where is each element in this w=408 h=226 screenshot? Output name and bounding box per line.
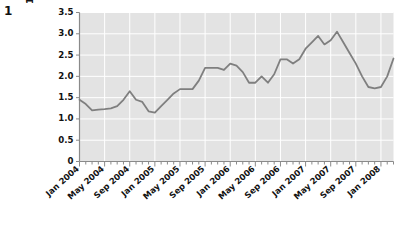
y-tick-label: 3.5 <box>58 7 73 17</box>
y-tick-label: 3.0 <box>58 28 73 38</box>
y-axis-ticks: 00.51.01.52.02.53.03.5 <box>58 7 79 166</box>
y-tick-label: 1.5 <box>58 92 73 102</box>
x-axis-ticks <box>80 162 394 167</box>
y-tick-label: 2.5 <box>58 50 73 60</box>
y-tick-label: 0.5 <box>58 135 73 145</box>
y-tick-label: 2.0 <box>58 71 73 81</box>
line-chart: 00.51.01.52.02.53.03.5 Jan 2004May 2004S… <box>0 0 408 226</box>
x-axis-labels: Jan 2004May 2004Sep 2004Jan 2005May 2005… <box>43 163 382 201</box>
plot-background <box>80 13 394 162</box>
y-tick-label: 1.0 <box>58 113 73 123</box>
figure-container: 1 % change on 12 months earlier 00.51.01… <box>0 0 408 226</box>
